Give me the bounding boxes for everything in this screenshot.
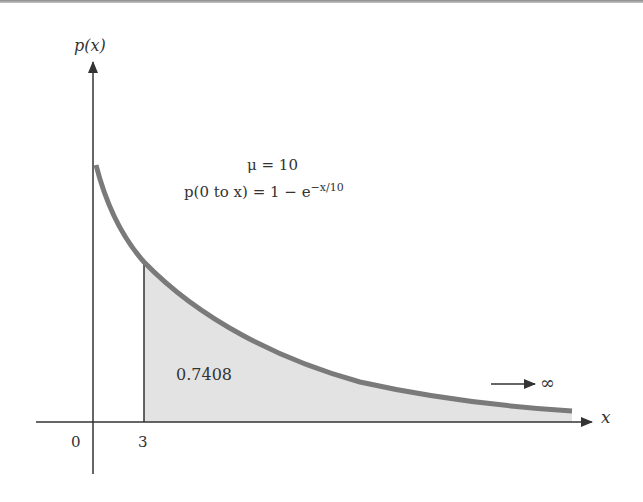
- infinity-symbol: ∞: [540, 372, 555, 393]
- cdf-text: p(0 to x) = 1 − e: [184, 183, 311, 201]
- tick-zero: 0: [71, 433, 81, 451]
- y-axis-label: p(x): [74, 36, 106, 55]
- mu-label: μ = 10: [247, 156, 298, 174]
- chart-root: p(x) x μ = 10 p(0 to x) = 1 − e−x/10 0.7…: [0, 0, 643, 502]
- cdf-exponent: −x/10: [311, 181, 344, 194]
- area-value: 0.7408: [176, 365, 232, 384]
- x-axis-label: x: [601, 407, 611, 427]
- chart-svg: [0, 0, 643, 502]
- shaded-area: [144, 262, 572, 422]
- cdf-label: p(0 to x) = 1 − e−x/10: [184, 181, 344, 201]
- tick-three: 3: [138, 433, 148, 451]
